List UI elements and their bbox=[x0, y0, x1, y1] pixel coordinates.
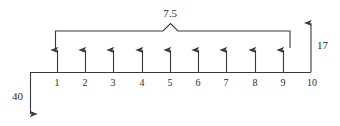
station-label-6: 6 bbox=[196, 78, 201, 88]
right-reaction-label: 17 bbox=[317, 40, 328, 51]
station-label-10: 10 bbox=[307, 78, 317, 88]
station-label-8: 8 bbox=[253, 78, 258, 88]
station-label-5: 5 bbox=[168, 78, 173, 88]
station-label-3: 3 bbox=[111, 78, 116, 88]
station-label-4: 4 bbox=[140, 78, 145, 88]
span-dimension-label: 7.5 bbox=[163, 8, 177, 19]
station-label-1: 1 bbox=[55, 78, 60, 88]
beam-load-diagram: 7.5 17 40 1 2 3 4 5 6 7 8 9 10 bbox=[0, 0, 340, 126]
load-arrow-group bbox=[58, 50, 284, 72]
span-bracket bbox=[56, 24, 291, 49]
station-label-2: 2 bbox=[83, 78, 88, 88]
station-label-9: 9 bbox=[281, 78, 286, 88]
left-reaction-label: 40 bbox=[12, 91, 23, 102]
station-label-7: 7 bbox=[224, 78, 229, 88]
